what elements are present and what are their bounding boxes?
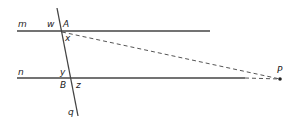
label-y: y: [59, 67, 66, 77]
label-w: w: [47, 19, 55, 29]
label-m: m: [18, 19, 27, 29]
label-q: q: [68, 107, 74, 117]
label-z: z: [75, 80, 81, 90]
label-n: n: [18, 67, 24, 77]
label-A: A: [62, 19, 69, 29]
segment-AP: [62, 32, 280, 79]
geometry-diagram: m w A x n y B z q P: [0, 0, 296, 124]
label-P: P: [277, 65, 283, 75]
label-B: B: [60, 80, 66, 90]
point-P: [278, 77, 282, 81]
label-x: x: [64, 33, 71, 43]
